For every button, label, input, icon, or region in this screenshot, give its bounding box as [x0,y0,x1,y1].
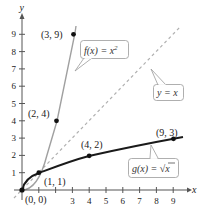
point-2-4 [54,118,59,123]
label-4-2: (4, 2) [81,139,103,151]
callout-g: g(x) = √x [129,145,179,178]
svg-text:4: 4 [12,116,17,126]
svg-text:7: 7 [137,196,142,206]
svg-text:f(x) = x2: f(x) = x2 [84,44,118,57]
svg-text:8: 8 [12,47,17,57]
label-0-0: (0, 0) [25,194,47,206]
svg-text:5: 5 [12,99,17,109]
y-tick-labels: 1 2 3 4 5 6 7 8 9 [12,29,17,177]
callout-identity: y = x [151,69,184,101]
svg-text:7: 7 [12,64,17,74]
point-0-0 [19,187,24,192]
svg-text:3: 3 [70,196,75,206]
label-9-3: (9, 3) [156,127,178,139]
y-axis [19,13,25,200]
svg-text:g(x) = √x: g(x) = √x [132,163,170,175]
point-1-1 [36,170,41,175]
y-axis-label: y [19,2,25,13]
callout-f: f(x) = x2 [75,41,129,72]
svg-text:8: 8 [154,196,159,206]
svg-text:5: 5 [104,196,109,206]
x-tick-labels: 3 4 5 6 7 8 9 [70,196,176,206]
svg-text:9: 9 [171,196,176,206]
x-axis-label: x [191,184,197,195]
svg-text:1: 1 [12,168,17,178]
svg-text:y = x: y = x [156,87,178,98]
label-2-4: (2, 4) [28,108,50,120]
svg-text:9: 9 [12,29,17,39]
function-graph: x y 3 4 5 6 7 8 9 1 2 3 4 5 6 7 8 9 (3, … [0,0,197,219]
y-axis-arrow-icon [20,13,25,19]
svg-text:2: 2 [12,150,17,160]
label-3-9: (3, 9) [41,29,63,41]
x-axis [14,187,192,193]
label-1-1: (1, 1) [44,176,66,188]
point-4-2 [87,153,92,158]
svg-text:6: 6 [12,81,17,91]
svg-text:3: 3 [12,133,17,143]
point-3-9 [71,32,76,37]
svg-text:6: 6 [121,196,126,206]
svg-text:4: 4 [87,196,92,206]
